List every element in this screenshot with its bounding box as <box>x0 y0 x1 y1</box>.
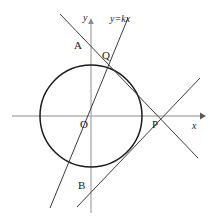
line-y-equals-kx <box>50 18 128 208</box>
line-through-a-q-p <box>60 14 198 158</box>
x-axis <box>12 113 206 120</box>
point-b-label: B <box>78 180 85 191</box>
geometry-figure <box>0 0 210 219</box>
point-a-label: A <box>74 40 82 51</box>
point-p-label: P <box>152 119 158 130</box>
y-axis-label: y <box>83 13 87 23</box>
line-equation-label: y=kx <box>110 14 130 24</box>
x-axis-label: x <box>192 121 196 131</box>
origin-label: O <box>80 119 88 130</box>
point-q-label: Q <box>102 50 110 61</box>
